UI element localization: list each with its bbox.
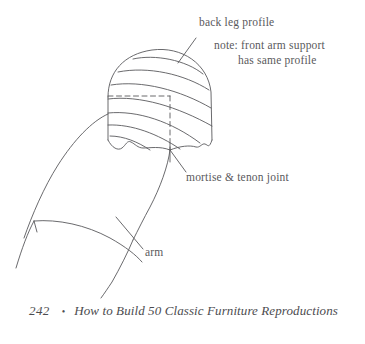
grain-line-2 [118,70,209,90]
label-arm: arm [145,245,163,260]
page-footer: 242 • How to Build 50 Classic Furniture … [29,303,338,319]
footer-bullet-separator: • [50,306,75,317]
footer-book-title: How to Build 50 Classic Furniture Reprod… [74,303,338,319]
back-leg-dome-outline [108,49,212,140]
back-leg-profile-leader-line [178,38,196,63]
grain-line-5 [108,113,200,143]
note-line-2: has same profile [214,53,325,68]
label-back-leg-profile: back leg profile [199,15,274,30]
arm-lower-contour [101,240,133,298]
footer-page-number: 242 [29,303,50,319]
arm-right-edge [133,150,170,240]
grain-line-4 [108,98,212,126]
mortise-leader-line [170,150,186,172]
label-mortise-tenon-joint: mortise & tenon joint [186,170,289,185]
note-block: note: front arm support has same profile [214,38,325,68]
arm-break-tick [34,221,37,232]
book-page: back leg profile note: front arm support… [0,0,365,344]
arm-upper-edge [24,114,108,238]
note-line-1: note: front arm support [214,39,325,51]
arm-tail-edge [16,221,34,268]
dome-scalloped-bottom-edge [108,140,212,150]
